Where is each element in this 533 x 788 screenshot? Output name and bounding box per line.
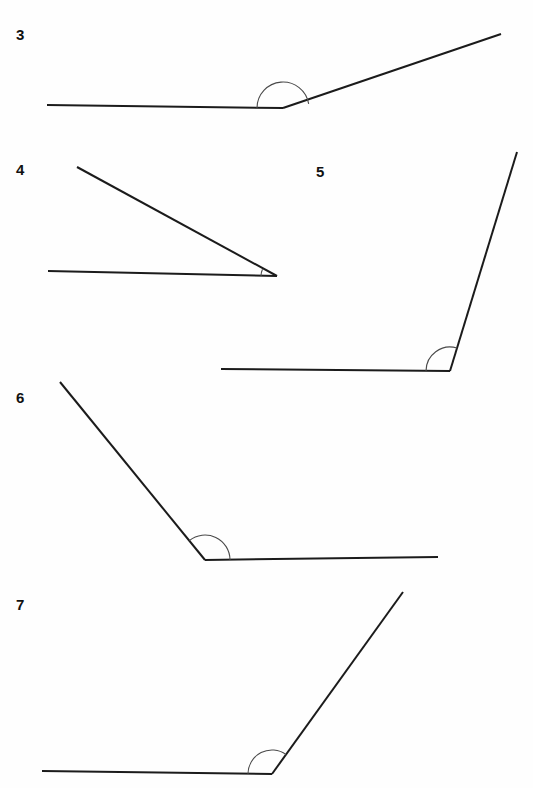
figure-6-horizontal-right-ray [205, 557, 438, 560]
worksheet-page: 3 4 5 6 7 [0, 0, 533, 788]
figure-7-horizontal-left-ray [42, 771, 272, 774]
figure-5-horizontal-left-ray [221, 369, 450, 371]
figure-4: 4 [16, 161, 277, 276]
figure-5-label: 5 [316, 163, 324, 180]
figure-5: 5 [221, 152, 517, 371]
figure-6-upper-left-ray [60, 382, 205, 560]
figure-7-upper-right-ray [272, 592, 403, 774]
figure-5-upper-right-ray [450, 152, 517, 371]
figure-4-upper-left-ray [77, 167, 277, 276]
figure-3-angle-arc [257, 82, 309, 108]
figure-3-label: 3 [16, 26, 24, 43]
figure-6: 6 [16, 382, 438, 560]
figure-5-angle-arc [426, 347, 457, 371]
figure-7: 7 [16, 592, 403, 774]
figure-3: 3 [16, 26, 501, 108]
figure-4-horizontal-left-ray [48, 271, 277, 276]
figures-canvas: 3 4 5 6 7 [0, 0, 533, 788]
figure-4-label: 4 [16, 161, 25, 178]
figure-7-label: 7 [16, 596, 24, 613]
figure-3-horizontal-left-ray [47, 105, 283, 108]
figure-3-upper-right-ray [283, 34, 501, 108]
figure-6-label: 6 [16, 389, 24, 406]
